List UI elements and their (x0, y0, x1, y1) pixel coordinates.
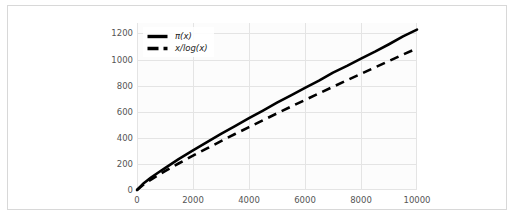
figure-frame: 0 200 400 600 800 1000 1200 0 2000 4000 … (7, 5, 507, 210)
y-tick-label: 0 (93, 186, 133, 195)
y-tick-label: 400 (93, 134, 133, 143)
x-axis-tick-labels: 0 2000 4000 6000 8000 10000 (137, 196, 417, 210)
y-tick-label: 600 (93, 107, 133, 116)
chart-legend: π(x) x/log(x) (143, 27, 214, 57)
x-tick-label: 6000 (275, 196, 335, 205)
x-tick-label: 2000 (163, 196, 223, 205)
x-tick-label: 4000 (219, 196, 279, 205)
y-tick-label: 800 (93, 81, 133, 90)
legend-label: π(x) (175, 32, 192, 41)
x-tick-label: 0 (107, 196, 167, 205)
y-axis-tick-labels: 0 200 400 600 800 1000 1200 (93, 23, 133, 190)
plot-area: π(x) x/log(x) (137, 23, 417, 190)
y-tick-label: 200 (93, 160, 133, 169)
legend-label: x/log(x) (175, 44, 208, 53)
legend-swatch-solid (147, 31, 168, 42)
series-line-x-over-log-x (137, 48, 417, 190)
legend-entry: π(x) (147, 30, 208, 42)
legend-entry: x/log(x) (147, 42, 208, 54)
x-tick-label: 8000 (331, 196, 391, 205)
y-tick-label: 1000 (93, 55, 133, 64)
y-tick-label: 1200 (93, 29, 133, 38)
x-tick-label: 10000 (387, 196, 447, 205)
legend-swatch-dashed (147, 43, 168, 54)
